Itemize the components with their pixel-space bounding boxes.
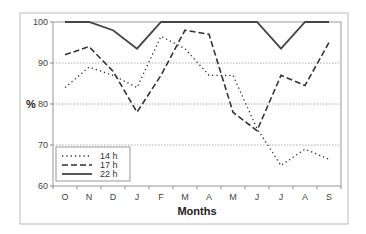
y-tick-label: 60 xyxy=(38,181,48,191)
x-tick-label: M xyxy=(181,192,189,202)
legend-label-22h: 22 h xyxy=(100,169,118,179)
y-axis-title: % xyxy=(26,98,36,110)
x-tick-label: O xyxy=(61,192,68,202)
x-tick-label: J xyxy=(279,192,284,202)
legend: 14 h 17 h 22 h xyxy=(56,147,130,181)
x-tick-label: S xyxy=(326,192,332,202)
y-tick-label: 100 xyxy=(33,17,48,27)
x-tick-label: D xyxy=(110,192,117,202)
x-tick-label: J xyxy=(135,192,140,202)
y-tick-label: 80 xyxy=(38,99,48,109)
line-chart: 60708090100 ONDJFMAMJJAS % Months 14 h 1… xyxy=(0,0,366,234)
x-tick-label: J xyxy=(255,192,260,202)
y-tick-label: 90 xyxy=(38,58,48,68)
x-axis-title: Months xyxy=(177,205,216,217)
y-tick-label: 70 xyxy=(38,140,48,150)
x-tick-label: A xyxy=(302,192,308,202)
x-tick-label: A xyxy=(206,192,212,202)
x-tick-label: F xyxy=(158,192,164,202)
x-tick-label: M xyxy=(229,192,237,202)
x-tick-label: N xyxy=(86,192,93,202)
legend-box xyxy=(56,147,130,181)
